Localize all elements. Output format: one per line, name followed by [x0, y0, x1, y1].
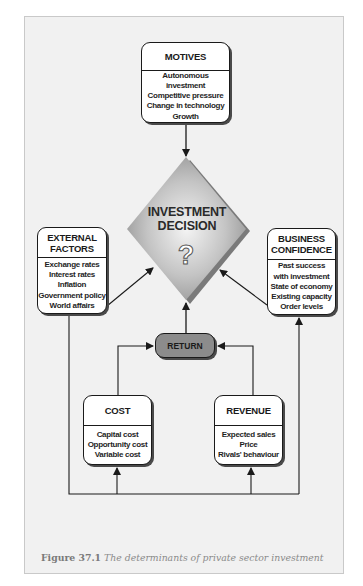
figure-caption: Figure 37.1 The determinants of private … [41, 552, 323, 563]
revenue-item: Price [239, 440, 257, 450]
cost-item: Variable cost [95, 450, 140, 460]
decision-label: INVESTMENT DECISION [128, 205, 246, 233]
business-confidence-title-line-2: CONFIDENCE [271, 244, 332, 255]
external-factors-item: Government policy [38, 291, 105, 301]
external-factors-title-line-1: EXTERNAL [47, 232, 97, 243]
decision-line-1: INVESTMENT [128, 205, 246, 219]
cost-box: COST Capital cost Opportunity cost Varia… [83, 395, 152, 465]
motives-title: MOTIVES [142, 43, 229, 71]
business-confidence-box: BUSINESS CONFIDENCE Past success with in… [267, 228, 336, 315]
cost-title: COST [84, 396, 151, 426]
external-factors-item: Inflation [58, 280, 86, 290]
motives-item: Growth [172, 112, 198, 122]
business-confidence-title: BUSINESS CONFIDENCE [268, 229, 335, 260]
motives-box: MOTIVES Autonomous investment Competitiv… [141, 42, 230, 123]
revenue-item: Expected sales [222, 430, 276, 440]
external-factors-title-line-2: FACTORS [50, 243, 94, 254]
business-confidence-item: Past success [278, 261, 325, 271]
revenue-title: REVENUE [215, 396, 282, 426]
business-confidence-title-line-1: BUSINESS [278, 233, 325, 244]
external-factors-item: Exchange rates [45, 260, 100, 270]
external-factors-box: EXTERNAL FACTORS Exchange rates Interest… [37, 227, 107, 314]
cost-list: Capital cost Opportunity cost Variable c… [84, 426, 151, 464]
motives-item: Change in technology [147, 101, 225, 111]
decision-line-2: DECISION [128, 219, 246, 233]
business-confidence-item: Existing capacity [271, 292, 331, 302]
external-factors-list: Exchange rates Interest rates Inflation … [38, 258, 106, 313]
revenue-list: Expected sales Price Rivals' behaviour [215, 426, 282, 464]
return-box: RETURN [155, 333, 215, 358]
business-confidence-list: Past success with investment State of ec… [268, 260, 335, 314]
external-factors-item: World affairs [50, 301, 95, 311]
business-confidence-item: State of economy [271, 282, 333, 292]
business-confidence-item: Order levels [280, 302, 323, 312]
motives-list: Autonomous investment Competitive pressu… [142, 71, 229, 122]
motives-item: Competitive pressure [148, 91, 224, 101]
motives-item: Autonomous investment [142, 71, 229, 92]
external-factors-title: EXTERNAL FACTORS [38, 228, 106, 258]
business-confidence-item: with investment [274, 272, 330, 282]
caption-label: Figure 37.1 [41, 552, 101, 563]
caption-text: The determinants of private sector inves… [104, 552, 323, 563]
cost-item: Opportunity cost [88, 440, 148, 450]
revenue-item: Rivals' behaviour [218, 450, 279, 460]
question-mark-icon: ? [171, 241, 201, 269]
cost-item: Capital cost [97, 430, 139, 440]
arrow-external-to-decision [107, 268, 153, 306]
arrow-cost-to-return [118, 346, 153, 395]
revenue-box: REVENUE Expected sales Price Rivals' beh… [214, 395, 283, 465]
external-factors-item: Interest rates [49, 270, 95, 280]
arrow-revenue-to-return [218, 346, 253, 395]
arrow-confidence-to-decision [220, 270, 267, 305]
